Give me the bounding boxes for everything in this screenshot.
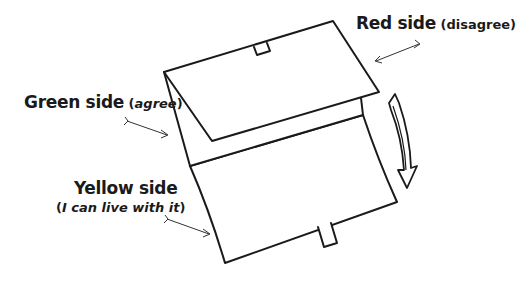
yellow-pointer-arrow: [167, 219, 209, 234]
green-side-qualifier: agree: [135, 96, 177, 111]
yellow-side-label: Yellow side (I can live with it): [66, 178, 185, 215]
red-side-qualifier: disagree: [446, 17, 510, 32]
red-side-label: Red side (disagree): [356, 13, 516, 33]
yellow-side-qualifier: I can live with it: [62, 200, 179, 215]
red-pointer-arrow: [376, 44, 419, 61]
yellow-side-title: Yellow side: [66, 178, 185, 198]
green-side-title: Green side: [24, 92, 124, 112]
fold-direction-arrow-icon: [389, 94, 417, 188]
green-pointer-arrow: [127, 121, 167, 135]
red-side-title: Red side: [356, 13, 436, 33]
bottom-tab: [318, 223, 337, 247]
green-side-label: Green side (agree): [24, 92, 183, 112]
